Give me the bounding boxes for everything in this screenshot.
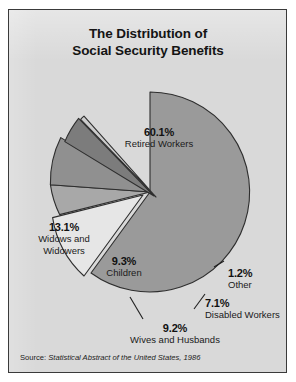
callout-children: 9.3% Children (93, 255, 155, 279)
leader-line-disabled-workers (194, 294, 205, 309)
callout-disabled-workers-percent: 7.1% (205, 297, 296, 309)
callout-children-percent: 9.3% (93, 255, 155, 267)
callout-disabled-workers-label: Disabled Workers (205, 309, 296, 321)
callout-other-percent: 1.2% (228, 267, 282, 279)
source-label: Source: (20, 353, 46, 362)
callout-widows-and-widowers-label-line-1: Widows and (22, 233, 106, 245)
callout-other-label: Other (228, 279, 282, 291)
callout-children-label: Children (93, 267, 155, 279)
leader-line-wives-and-husbands (130, 297, 143, 319)
callout-wives-and-husbands-percent: 9.2% (114, 322, 236, 334)
callout-wives-and-husbands: 9.2% Wives and Husbands (114, 322, 236, 346)
source-citation: Statistical Abstract of the United State… (48, 353, 200, 362)
callout-widows-and-widowers-percent: 13.1% (22, 221, 106, 233)
source-note: Source: Statistical Abstract of the Unit… (20, 353, 200, 362)
callout-disabled-workers: 7.1% Disabled Workers (205, 297, 296, 321)
callout-retired-workers-percent: 60.1% (105, 126, 213, 138)
callout-wives-and-husbands-label: Wives and Husbands (114, 334, 236, 346)
callout-retired-workers-label: Retired Workers (105, 138, 213, 150)
pie-chart-area: 60.1% Retired Workers 13.1% Widows and W… (8, 9, 287, 373)
callout-other: 1.2% Other (228, 267, 282, 291)
callout-widows-and-widowers: 13.1% Widows and Widowers (22, 221, 106, 257)
callout-retired-workers: 60.1% Retired Workers (105, 126, 213, 150)
figure-root: The Distribution of Social Security Bene… (0, 0, 296, 382)
